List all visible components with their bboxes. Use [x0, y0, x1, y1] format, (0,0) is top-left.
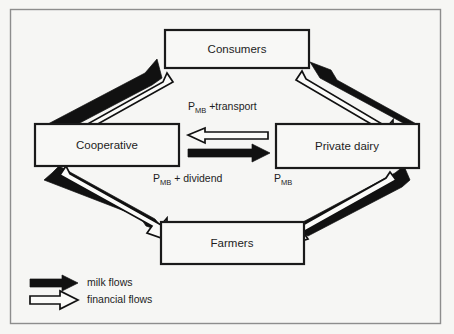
legend-financial-label: financial flows — [87, 293, 152, 305]
flow-label-dividend: PMB + dividend — [153, 172, 223, 187]
legend-milk-label: milk flows — [87, 276, 133, 288]
legend-milk-arrow-icon — [30, 275, 78, 291]
diagram-canvas: Consumers Cooperative Private dairy Farm… — [0, 0, 454, 334]
flow-label-dividend-base: P — [153, 172, 160, 184]
flow-label-pmb-base: P — [274, 172, 281, 184]
flow-label-transport-base: P — [188, 100, 195, 112]
node-cooperative-label: Cooperative — [76, 139, 138, 151]
node-cooperative[interactable]: Cooperative — [35, 124, 179, 166]
flow-label-dividend-sub: MB — [160, 178, 171, 187]
legend-item-financial: financial flows — [30, 291, 152, 309]
flow-label-pmb: PMB — [274, 172, 292, 187]
flow-label-transport-rest: +transport — [206, 100, 257, 112]
arrow-cooperative-to-private-dairy-milk — [188, 144, 270, 162]
node-farmers[interactable]: Farmers — [161, 222, 304, 264]
arrow-cooperative-to-farmers-financial — [60, 166, 167, 240]
node-farmers-label: Farmers — [211, 237, 254, 249]
node-consumers-label: Consumers — [208, 43, 267, 55]
node-private-dairy[interactable]: Private dairy — [276, 124, 419, 168]
node-private-dairy-label: Private dairy — [315, 140, 379, 152]
milk-supply-chain-diagram: Consumers Cooperative Private dairy Farm… — [0, 0, 454, 334]
flow-label-transport: PMB +transport — [188, 100, 257, 115]
legend-financial-arrow-icon — [30, 291, 78, 309]
node-consumers[interactable]: Consumers — [165, 30, 309, 68]
flow-label-transport-sub: MB — [195, 106, 206, 115]
legend-item-milk: milk flows — [30, 275, 133, 291]
legend: milk flows financial flows — [30, 275, 152, 309]
flow-label-dividend-rest: + dividend — [171, 172, 222, 184]
arrow-private-dairy-to-cooperative-financial — [188, 128, 268, 143]
flow-label-pmb-sub: MB — [281, 178, 292, 187]
